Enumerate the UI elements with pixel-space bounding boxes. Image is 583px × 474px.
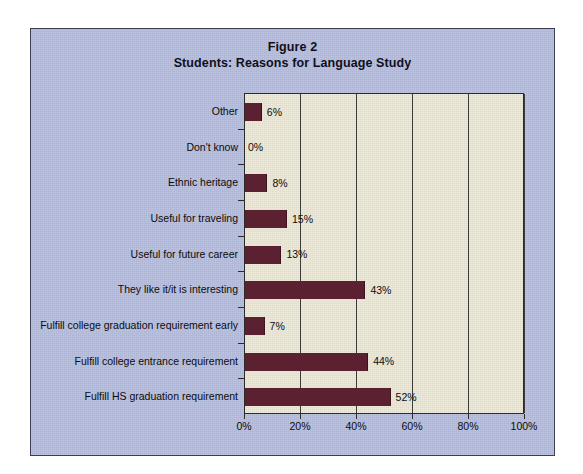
x-tick-label: 0% <box>236 420 251 432</box>
plot-area: 6%0%8%15%13%43%7%44%52% <box>244 93 524 414</box>
bar-value-label: 6% <box>262 107 282 118</box>
bar-value-label: 0% <box>245 142 263 153</box>
x-tick-mark <box>300 414 301 419</box>
category-tick <box>238 343 244 344</box>
x-tick-mark <box>524 414 525 419</box>
category-label: Don't know <box>186 141 238 153</box>
bar[interactable] <box>245 388 391 406</box>
bar-value-label: 7% <box>265 321 285 332</box>
category-tick <box>238 307 244 308</box>
bar-value-label: 13% <box>281 249 307 260</box>
bar[interactable] <box>245 246 281 264</box>
figure-panel: Figure 2 Students: Reasons for Language … <box>30 28 555 456</box>
bar-series: 6%0%8%15%13%43%7%44%52% <box>245 94 523 413</box>
x-tick-label: 60% <box>401 420 422 432</box>
chart-title-line-1: Figure 2 <box>31 39 554 55</box>
category-tick <box>238 200 244 201</box>
gridline-100 <box>524 94 525 413</box>
category-tick <box>238 271 244 272</box>
bar-row[interactable]: 15% <box>245 210 523 228</box>
bar-value-label: 15% <box>287 214 313 225</box>
bar-row[interactable]: 13% <box>245 246 523 264</box>
category-label: Fulfill college graduation requirement e… <box>40 319 238 331</box>
x-tick-label: 80% <box>457 420 478 432</box>
x-tick-mark <box>244 414 245 419</box>
bar[interactable] <box>245 281 365 299</box>
chart-title-line-2: Students: Reasons for Language Study <box>31 55 554 71</box>
bar-row[interactable]: 7% <box>245 317 523 335</box>
bar-row[interactable]: 0% <box>245 139 523 157</box>
category-label: Ethnic heritage <box>168 176 238 188</box>
x-tick-mark <box>356 414 357 419</box>
x-tick-label: 40% <box>345 420 366 432</box>
category-label: Useful for traveling <box>150 212 238 224</box>
category-label: Useful for future career <box>131 248 238 260</box>
x-tick-label: 100% <box>511 420 538 432</box>
bar[interactable] <box>245 317 265 335</box>
bar-value-label: 8% <box>267 178 287 189</box>
category-label: Fulfill HS graduation requirement <box>85 390 239 402</box>
bar-row[interactable]: 44% <box>245 353 523 371</box>
bar[interactable] <box>245 103 262 121</box>
bar[interactable] <box>245 174 267 192</box>
x-tick-mark <box>468 414 469 419</box>
x-tick-mark <box>412 414 413 419</box>
category-tick <box>238 378 244 379</box>
bar[interactable] <box>245 353 368 371</box>
category-label: Fulfill college entrance requirement <box>75 355 238 367</box>
category-label: They like it/it is interesting <box>118 283 238 295</box>
bar-value-label: 52% <box>391 392 417 403</box>
category-tick <box>238 236 244 237</box>
bar-value-label: 44% <box>368 356 394 367</box>
bar-row[interactable]: 43% <box>245 281 523 299</box>
category-tick <box>238 164 244 165</box>
bar-row[interactable]: 8% <box>245 174 523 192</box>
bar[interactable] <box>245 210 287 228</box>
x-tick-label: 20% <box>289 420 310 432</box>
category-tick <box>238 129 244 130</box>
bar-value-label: 43% <box>365 285 391 296</box>
bar-row[interactable]: 6% <box>245 103 523 121</box>
chart-title: Figure 2 Students: Reasons for Language … <box>31 39 554 71</box>
category-label: Other <box>212 105 238 117</box>
bar-row[interactable]: 52% <box>245 388 523 406</box>
